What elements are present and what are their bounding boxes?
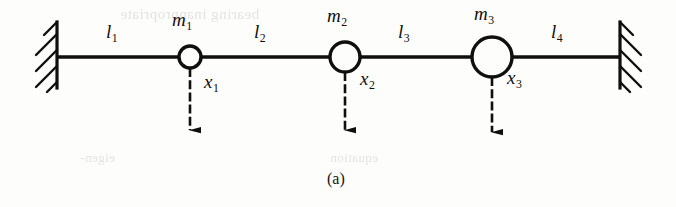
segment-label-l1: l1 [106,22,118,45]
mass-label-m1-base: m [172,9,186,30]
mass-label-m3: m3 [474,4,494,27]
mass-label-m1: m1 [172,10,192,33]
mass-label-m3-base: m [474,3,488,24]
segment-label-l4: l4 [551,22,563,45]
mass-label-m3-subscript: 3 [488,14,494,27]
figure-caption: (a) [327,170,345,188]
displacement-label-x3-subscript: 3 [515,78,521,91]
displacement-arrows [190,68,492,132]
mass-label-m2: m2 [327,6,347,29]
mass-circle-m3 [472,37,512,77]
mass-circle-m2 [330,42,360,72]
left-wall [36,22,57,92]
displacement-label-x3: x3 [507,68,522,91]
mass-label-m2-base: m [327,5,341,26]
segment-label-l3-subscript: 3 [403,32,409,45]
mass-circle-m1 [179,46,201,68]
right-wall [620,22,641,92]
mass-label-m1-subscript: 1 [186,20,192,33]
figure-container: bearing inappropriate eigen- equation [0,0,676,207]
displacement-label-x1-subscript: 1 [212,82,218,95]
segment-label-l3: l3 [398,22,410,45]
segment-label-l4-subscript: 4 [556,32,562,45]
segment-label-l1-subscript: 1 [111,32,117,45]
displacement-label-x2: x2 [360,69,375,92]
segment-label-l2: l2 [254,22,266,45]
displacement-label-x2-subscript: 2 [368,79,374,92]
segment-label-l2-subscript: 2 [259,32,265,45]
displacement-label-x1: x1 [204,72,219,95]
mass-label-m2-subscript: 2 [341,16,347,29]
